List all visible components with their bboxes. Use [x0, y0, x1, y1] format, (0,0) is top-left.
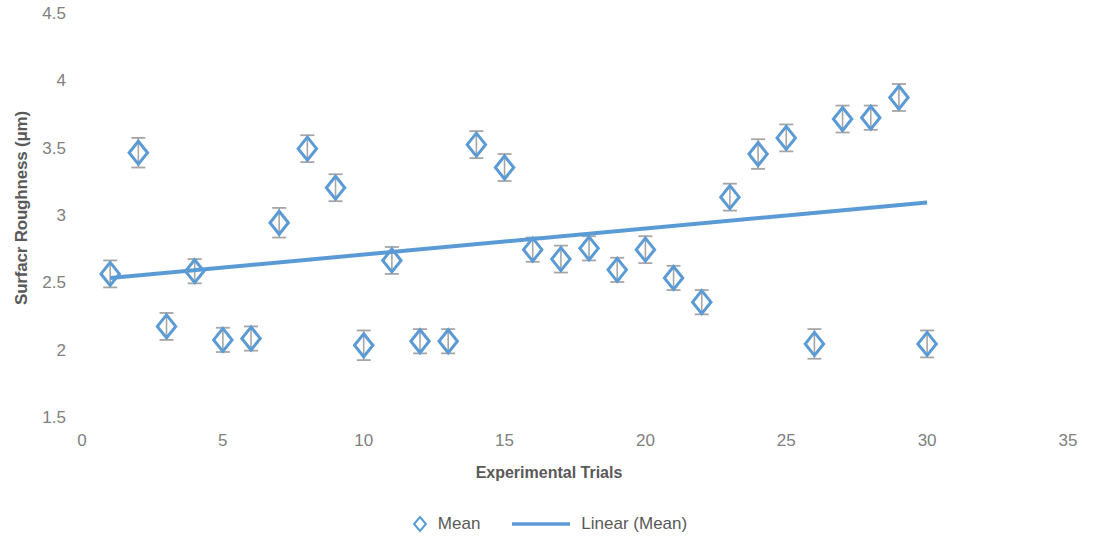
- x-axis-tick-label: 15: [475, 432, 535, 449]
- data-point: [805, 329, 823, 359]
- x-axis-title: Experimental Trials: [0, 464, 1098, 482]
- data-point: [242, 326, 260, 350]
- data-point: [355, 330, 373, 360]
- legend-line-icon: [510, 517, 572, 531]
- y-axis-tick-label: 2.5: [22, 274, 66, 291]
- y-axis-tick-label: 3: [22, 207, 66, 224]
- data-point: [777, 124, 795, 151]
- legend-item-mean[interactable]: Mean: [411, 514, 481, 534]
- data-point: [101, 260, 119, 287]
- data-point: [298, 135, 316, 162]
- data-point: [270, 208, 288, 238]
- x-axis-tick-label: 10: [334, 432, 394, 449]
- series-layer: [101, 84, 936, 360]
- data-point: [693, 290, 711, 314]
- x-axis-tick-label: 25: [756, 432, 816, 449]
- y-axis-tick-label: 1.5: [22, 409, 66, 426]
- data-point: [129, 138, 147, 168]
- legend-diamond-icon: [411, 515, 429, 533]
- scatter-chart: Surfacr Roughness (μm) 1.522.533.544.5 0…: [0, 0, 1098, 553]
- data-point: [411, 329, 429, 353]
- data-point: [157, 313, 175, 340]
- x-axis-tick-label: 35: [1038, 432, 1098, 449]
- data-point: [439, 329, 457, 353]
- data-point: [918, 330, 936, 357]
- legend-label-mean: Mean: [438, 514, 481, 534]
- data-point: [552, 246, 570, 273]
- data-point: [664, 266, 682, 290]
- y-axis-tick-label: 3.5: [22, 140, 66, 157]
- data-point: [721, 184, 739, 211]
- data-point: [636, 236, 654, 263]
- x-axis-tick-label: 5: [193, 432, 253, 449]
- data-point: [862, 106, 880, 130]
- data-point: [749, 139, 767, 169]
- y-axis-tick-label: 2: [22, 342, 66, 359]
- chart-legend: Mean Linear (Mean): [0, 514, 1098, 534]
- legend-label-linear-mean: Linear (Mean): [581, 514, 687, 534]
- y-axis-tick-label: 4.5: [22, 5, 66, 22]
- data-point: [214, 328, 232, 352]
- y-axis-tick-labels: 1.522.533.544.5: [0, 0, 66, 440]
- y-axis-tick-label: 4: [22, 72, 66, 89]
- data-point: [467, 131, 485, 158]
- data-point: [495, 154, 513, 181]
- data-point: [833, 106, 851, 133]
- data-point: [890, 84, 908, 111]
- x-axis-tick-label: 0: [52, 432, 112, 449]
- x-axis-tick-label: 20: [615, 432, 675, 449]
- data-point: [608, 258, 626, 282]
- trendline: [110, 203, 927, 278]
- data-point: [580, 236, 598, 260]
- x-axis-tick-label: 30: [897, 432, 957, 449]
- legend-item-linear-mean[interactable]: Linear (Mean): [510, 514, 687, 534]
- trendline-layer: [110, 203, 927, 278]
- data-point: [326, 174, 344, 201]
